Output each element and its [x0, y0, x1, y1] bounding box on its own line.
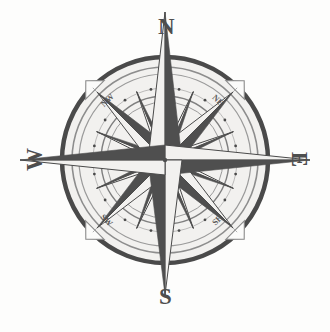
compass-label-west: W — [23, 148, 46, 171]
ring-dot — [178, 229, 181, 232]
star-center-hub — [163, 158, 167, 162]
compass-label-south: S — [159, 285, 172, 308]
compass-label-north: N — [158, 15, 175, 38]
ring-dot — [104, 199, 107, 202]
ring-dot — [124, 218, 127, 221]
ring-dot — [93, 145, 96, 148]
ring-dot — [223, 119, 226, 122]
compass-label-east: E — [288, 152, 311, 167]
ring-dot — [150, 229, 153, 232]
ring-dot — [104, 119, 107, 122]
ring-dot — [204, 218, 207, 221]
ring-dot — [124, 99, 127, 102]
ring-dot — [204, 99, 207, 102]
compass-rose-figure: N E S W NW NE SW SE — [0, 0, 330, 332]
ring-dot — [234, 173, 237, 176]
ring-dot — [178, 88, 181, 91]
compass-rose-drawing — [0, 0, 330, 332]
ring-dot — [234, 145, 237, 148]
ring-dot — [150, 88, 153, 91]
ring-dot — [223, 199, 226, 202]
ring-dot — [93, 173, 96, 176]
